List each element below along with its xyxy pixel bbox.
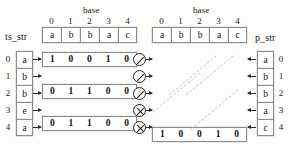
left-bit-row-2: 0 1 1 0 0	[42, 116, 137, 131]
left-base-index-3: 3	[99, 16, 118, 26]
ts-str-label: ts_str	[5, 32, 27, 42]
right-bit-0-4: 0	[227, 128, 246, 141]
right-base-cell-2: b	[190, 27, 209, 43]
left-bit-1-2: 1	[80, 85, 99, 98]
left-bit-2-0: 0	[43, 117, 62, 130]
operator-slash-circle-1	[133, 70, 146, 83]
p-str-cell-3: a	[257, 102, 274, 119]
left-bit-0-1: 0	[62, 53, 81, 66]
ts-str-cell-2: b	[16, 85, 33, 102]
arrow-op-to-right-3	[146, 110, 152, 111]
p-str-column: a b b a c	[257, 51, 274, 136]
right-base-index-4: 4	[228, 16, 247, 26]
p-str-cell-1: b	[257, 68, 274, 85]
left-bit-row-0: 1 0 0 1 0	[42, 52, 137, 67]
right-base-index-2: 2	[190, 16, 209, 26]
right-base-cell-3: a	[209, 27, 228, 43]
left-base-strip: a b b a c	[42, 27, 137, 43]
left-base-index-0: 0	[42, 16, 61, 26]
operator-slash-circle-2	[133, 87, 146, 100]
arrow-right-to-pstr-4	[248, 127, 256, 128]
right-base-strip: a b b a c	[152, 27, 247, 43]
arrow-ts-to-bits-3	[33, 110, 41, 111]
arrow-ts-to-bits-2	[33, 93, 41, 94]
arrow-op-to-right-2	[146, 93, 152, 94]
arrow-op-to-right-1	[146, 76, 152, 77]
arrow-ts-to-bits-1	[33, 76, 41, 77]
p-str-cell-0: a	[257, 51, 274, 68]
ts-str-column: a b b e a	[16, 51, 33, 136]
right-base-index-0: 0	[152, 16, 171, 26]
arrow-ts-to-bits-4	[33, 127, 41, 128]
right-base-index-3: 3	[209, 16, 228, 26]
arrow-op-to-right-0	[146, 59, 152, 60]
arrow-right-to-pstr-2	[248, 93, 256, 94]
arrow-right-to-pstr-0	[248, 59, 256, 60]
left-bit-row-1: 0 1 1 0 0	[42, 84, 137, 99]
operator-x-circle-3	[133, 104, 146, 117]
right-bit-0-0: 1	[153, 128, 172, 141]
ts-str-row-index-4: 4	[2, 122, 14, 132]
p-str-row-index-1: 1	[275, 71, 287, 81]
ts-str-row-index-0: 0	[2, 54, 14, 64]
p-str-label: p_str	[255, 33, 276, 43]
right-bit-0-2: 0	[190, 128, 209, 141]
arrow-right-to-pstr-1	[248, 76, 256, 77]
left-base-cell-0: a	[42, 27, 61, 43]
ts-str-cell-1: b	[16, 68, 33, 85]
left-bit-0-0: 1	[43, 53, 62, 66]
diagram-canvas: base 0 1 2 3 4 a b b a c ts_str 0 1 2 3 …	[0, 0, 288, 144]
left-base-index-4: 4	[118, 16, 137, 26]
p-str-cell-4: c	[257, 119, 274, 136]
right-base-cell-0: a	[152, 27, 171, 43]
ts-str-row-index-1: 1	[2, 71, 14, 81]
right-bit-0-1: 0	[172, 128, 191, 141]
left-bit-1-3: 0	[99, 85, 118, 98]
ts-str-cell-0: a	[16, 51, 33, 68]
right-base-cell-1: b	[171, 27, 190, 43]
left-bit-2-2: 1	[80, 117, 99, 130]
left-base-cell-1: b	[61, 27, 80, 43]
left-bit-1-0: 0	[43, 85, 62, 98]
left-base-cell-4: c	[118, 27, 137, 43]
left-base-cell-3: a	[99, 27, 118, 43]
left-bit-0-2: 0	[80, 53, 99, 66]
arrow-ts-to-bits-0	[33, 59, 41, 60]
left-bit-0-3: 1	[99, 53, 118, 66]
p-str-cell-2: b	[257, 85, 274, 102]
right-base-index-1: 1	[171, 16, 190, 26]
p-str-row-index-2: 2	[275, 88, 287, 98]
left-base-index-2: 2	[80, 16, 99, 26]
right-bit-0-3: 1	[209, 128, 228, 141]
p-str-row-index-3: 3	[275, 105, 287, 115]
left-bit-2-3: 0	[99, 117, 118, 130]
right-base-cell-4: c	[228, 27, 247, 43]
left-base-index-1: 1	[61, 16, 80, 26]
ts-str-row-index-3: 3	[2, 105, 14, 115]
operator-x-circle-4	[133, 121, 146, 134]
ts-str-row-index-2: 2	[2, 88, 14, 98]
left-bit-2-1: 1	[62, 117, 81, 130]
left-base-caption: base	[83, 5, 99, 15]
arrow-right-to-pstr-3	[248, 110, 256, 111]
p-str-row-index-0: 0	[275, 54, 287, 64]
ts-str-cell-3: e	[16, 102, 33, 119]
operator-slash-circle-0	[133, 53, 146, 66]
right-bit-row-0: 1 0 0 1 0	[152, 127, 247, 142]
left-base-cell-2: b	[80, 27, 99, 43]
left-bit-1-1: 1	[62, 85, 81, 98]
ts-str-cell-4: a	[16, 119, 33, 136]
right-base-caption: base	[193, 5, 209, 15]
p-str-row-index-4: 4	[275, 122, 287, 132]
